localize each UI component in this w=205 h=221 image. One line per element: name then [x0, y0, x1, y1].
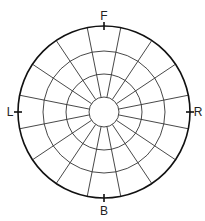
- spoke-line: [20, 115, 90, 129]
- spoke-line: [107, 28, 121, 98]
- spoke-line: [56, 124, 95, 183]
- spoke-line: [116, 120, 175, 159]
- label-back: B: [100, 204, 108, 218]
- label-front: F: [100, 9, 107, 23]
- spoke-line: [119, 95, 189, 109]
- spoke-line: [112, 124, 151, 183]
- segmented-circle-diagram: F B L R: [0, 0, 205, 221]
- label-right: R: [194, 105, 203, 119]
- middle-ring: [66, 74, 142, 150]
- orientation-ticks: [14, 22, 194, 202]
- radial-spokes: [20, 28, 189, 197]
- spoke-line: [116, 64, 175, 103]
- spoke-line: [32, 64, 91, 103]
- label-left: L: [7, 105, 14, 119]
- spoke-line: [87, 127, 101, 197]
- concentric-rings: [18, 26, 190, 198]
- middle-ring: [43, 51, 165, 173]
- spoke-line: [119, 115, 189, 129]
- spoke-line: [107, 127, 121, 197]
- outer-ring: [18, 26, 190, 198]
- spoke-line: [87, 28, 101, 98]
- spoke-line: [20, 95, 90, 109]
- hub-ring: [89, 97, 119, 127]
- spoke-line: [112, 40, 151, 99]
- spoke-line: [56, 40, 95, 99]
- spoke-line: [32, 120, 91, 159]
